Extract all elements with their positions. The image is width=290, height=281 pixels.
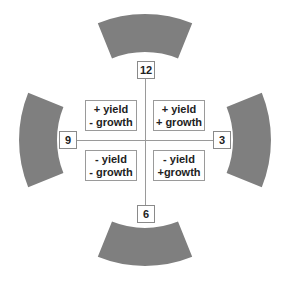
clock-label-9: 9 [59,131,77,149]
vertical-axis [145,78,146,205]
arc-segment-left [19,93,63,187]
arc-segment-bottom [98,222,192,266]
clock-label-3: 3 [213,131,231,149]
quadrant-yield-label: + yield [162,103,197,116]
quadrant-growth-label: - growth [89,116,132,129]
arc-segment-top [98,14,192,58]
quadrant-yield-label: - yield [95,153,127,166]
quadrant-yield-label: - yield [163,153,195,166]
quadrant-growth-label: +growth [157,166,200,179]
quadrant-growth-label: - growth [89,166,132,179]
quadrant-yield-label: + yield [94,103,129,116]
quadrant-top-left: + yield - growth [85,100,137,131]
arc-segment-right [227,93,271,187]
quadrant-growth-label: + growth [156,116,202,129]
quadrant-bottom-left: - yield - growth [85,150,137,181]
quadrant-bottom-right: - yield +growth [153,150,205,181]
clock-label-12: 12 [137,61,155,79]
clock-label-6: 6 [137,205,155,223]
quadrant-top-right: + yield + growth [153,100,205,131]
